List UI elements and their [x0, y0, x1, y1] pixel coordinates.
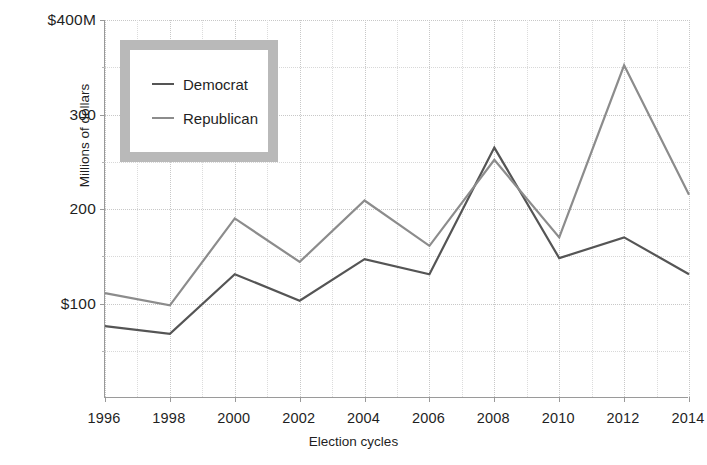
x-axis-tick-label: 2010 — [523, 410, 593, 426]
x-axis-tick-label: 1998 — [134, 410, 204, 426]
x-axis-tick-label: 1996 — [69, 410, 139, 426]
series-line-democrat — [105, 148, 689, 334]
x-axis-tick-label: 2000 — [199, 410, 269, 426]
legend-item: Democrat — [152, 76, 268, 93]
gridline-vertical — [689, 20, 690, 397]
legend-item: Republican — [152, 110, 268, 127]
y-axis-tick-label: $400M — [26, 11, 96, 29]
y-axis-tick-label: $100 — [26, 295, 96, 313]
legend-swatch-icon — [152, 83, 174, 85]
legend-label: Republican — [183, 110, 258, 127]
y-axis-tick-label: 300 — [26, 106, 96, 124]
legend-swatch-icon — [152, 117, 174, 119]
line-chart: Millions of dollars $100200300$400M 1996… — [0, 0, 707, 465]
legend-label: Democrat — [183, 76, 248, 93]
x-axis-tick-label: 2006 — [393, 410, 463, 426]
y-axis-tick-label: 200 — [26, 200, 96, 218]
chart-legend: DemocratRepublican — [120, 40, 278, 162]
x-axis-tick-label: 2008 — [458, 410, 528, 426]
x-axis-tick — [689, 397, 690, 402]
x-axis-tick-label: 2004 — [329, 410, 399, 426]
y-axis-title: Millions of dollars — [77, 46, 92, 226]
x-axis-title: Election cycles — [0, 434, 707, 449]
x-axis-tick-label: 2002 — [264, 410, 334, 426]
x-axis-tick-label: 2012 — [588, 410, 658, 426]
x-axis-tick-label: 2014 — [653, 410, 707, 426]
